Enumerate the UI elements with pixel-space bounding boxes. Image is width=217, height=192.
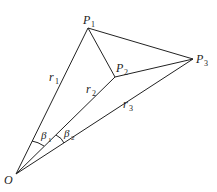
svg-text:2: 2 [71,134,75,142]
segment-p1-p3 [88,28,193,59]
svg-text:2: 2 [124,68,128,77]
svg-text:P: P [82,13,91,27]
svg-text:r: r [49,70,54,84]
point-label-o: O [4,173,13,187]
svg-text:3: 3 [129,104,133,113]
angle-label-beta1: β 1 [40,129,52,144]
svg-text:P: P [115,61,124,75]
svg-text:1: 1 [48,136,52,144]
segment-label-r1: r 1 [49,70,59,86]
segment-label-r2: r 2 [86,82,96,98]
segment-r3 [16,59,193,174]
angle-arc-beta1 [32,141,44,146]
svg-text:3: 3 [204,59,208,68]
point-label-p2: P 2 [115,61,128,77]
svg-text:1: 1 [91,20,95,29]
segment-r1 [16,28,88,174]
svg-text:2: 2 [92,89,96,98]
svg-text:O: O [4,173,13,187]
svg-text:β: β [40,129,47,141]
svg-text:r: r [123,97,128,111]
vector-diagram: P 1 P 2 P 3 O r 1 r 2 r 3 β 1 β 2 [0,0,217,192]
svg-text:β: β [63,127,70,139]
angle-arc-beta2 [56,135,64,143]
svg-text:1: 1 [55,77,59,86]
point-label-p3: P 3 [195,52,208,68]
segment-r2 [16,77,115,174]
segment-p1-p2 [88,28,115,77]
svg-text:P: P [195,52,204,66]
point-label-p1: P 1 [82,13,95,29]
svg-text:r: r [86,82,91,96]
